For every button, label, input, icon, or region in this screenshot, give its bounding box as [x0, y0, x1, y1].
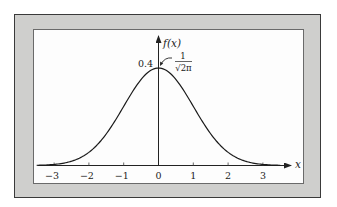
- peak-value-label: 0.4: [138, 58, 153, 69]
- x-axis-label: x: [295, 158, 301, 170]
- x-tick-label: −2: [80, 170, 94, 181]
- x-tick-label: 2: [225, 170, 231, 181]
- x-tick-label: −1: [115, 170, 129, 181]
- x-tick-label: 3: [260, 170, 266, 181]
- annotation-denominator: √2π: [175, 63, 192, 73]
- annotation-numerator: 1: [180, 51, 185, 61]
- normal-distribution-chart: −3−2−10123 f(x) x 0.4 1 √2π: [0, 0, 337, 207]
- annotation-arrow: [161, 58, 172, 64]
- x-tick-labels: −3−2−10123: [45, 170, 266, 181]
- x-tick-label: −3: [45, 170, 59, 181]
- x-tick-label: 0: [155, 170, 161, 181]
- y-axis-label: f(x): [162, 37, 181, 49]
- x-tick-label: 1: [190, 170, 196, 181]
